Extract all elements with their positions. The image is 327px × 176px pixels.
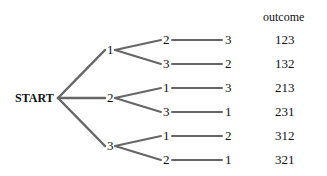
branch-edge-level2 (115, 136, 161, 146)
node-level2: 3 (163, 56, 170, 71)
branch-edge-level1 (58, 50, 105, 98)
branch-edge-level2 (115, 40, 161, 50)
outcome-header: outcome (263, 10, 304, 24)
outcome-value: 321 (275, 152, 295, 167)
outcome-value: 123 (275, 32, 295, 47)
node-level3: 3 (225, 80, 232, 95)
node-level2: 1 (163, 128, 170, 143)
branch-edge-level2 (115, 98, 161, 112)
node-level2: 2 (163, 32, 170, 47)
node-level2: 3 (163, 104, 170, 119)
outcome-value: 312 (275, 128, 295, 143)
node-level3: 1 (225, 104, 232, 119)
tree-diagram: START outcome 12312332132213213312313123… (0, 0, 327, 176)
node-level3: 2 (225, 56, 232, 71)
node-level2: 1 (163, 80, 170, 95)
node-level2: 2 (163, 152, 170, 167)
node-level3: 3 (225, 32, 232, 47)
node-level1: 3 (107, 138, 114, 153)
branch-edge-level2 (115, 88, 161, 98)
node-level1: 1 (107, 42, 114, 57)
node-level1: 2 (107, 90, 114, 105)
branch-edge-level1 (58, 98, 105, 146)
branch-edge-level2 (115, 146, 161, 160)
branch-edge-level2 (115, 50, 161, 64)
node-level3: 2 (225, 128, 232, 143)
outcome-value: 132 (275, 56, 295, 71)
outcome-value: 213 (275, 80, 295, 95)
node-level3: 1 (225, 152, 232, 167)
start-label: START (15, 91, 54, 105)
outcome-value: 231 (275, 104, 295, 119)
